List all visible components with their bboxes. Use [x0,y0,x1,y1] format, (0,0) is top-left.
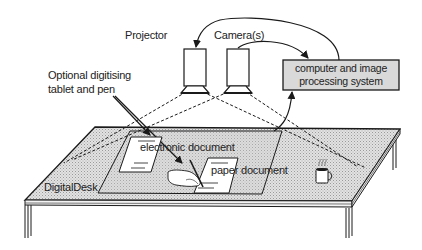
camera-label: Camera(s) [214,29,264,41]
computer-label: computer and image processing system [284,62,398,88]
projector-label: Projector [125,29,167,41]
desk-label: DigitalDesk [44,181,97,193]
electronic-document-label: electronic document [140,141,235,153]
tablet-label: Optional digitising tablet and pen [48,69,131,95]
tablet-label-line2: tablet and pen [48,83,131,95]
projector [181,49,209,93]
computer-label-line2: processing system [284,75,398,88]
tablet-label-line1: Optional digitising [48,69,131,81]
digitaldesk-diagram: Projector Camera(s) computer and image p… [0,0,422,250]
camera [224,49,252,93]
computer-label-line1: computer and image [284,62,398,75]
paper-document-label: paper document [211,164,288,176]
diagram-canvas [0,0,422,250]
